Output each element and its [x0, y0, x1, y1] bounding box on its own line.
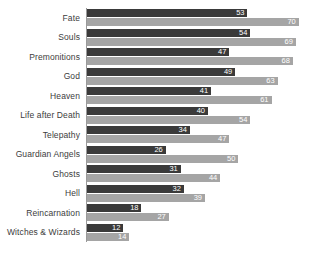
- chart-row: Life after Death 40 54: [0, 106, 314, 126]
- chart-row: Souls 54 69: [0, 28, 314, 48]
- category-label-ghosts: Ghosts: [0, 170, 86, 179]
- bar-primary-guardian-angels: 26: [87, 146, 166, 154]
- chart-row: Heaven 41 61: [0, 86, 314, 106]
- bar-value-primary-guardian-angels: 26: [154, 146, 162, 154]
- bar-value-secondary-ghosts: 44: [209, 174, 217, 182]
- chart-row: Telepathy 34 47: [0, 125, 314, 145]
- chart-row: God 49 63: [0, 67, 314, 87]
- bar-primary-hell: 32: [87, 185, 184, 193]
- bar-secondary-souls: 69: [87, 38, 296, 46]
- bar-group-ghosts: 31 44: [86, 164, 314, 184]
- bar-group-reincarnation: 18 27: [86, 203, 314, 223]
- bar-value-primary-god: 49: [224, 68, 232, 76]
- bar-value-secondary-life-after-death: 54: [239, 116, 247, 124]
- bar-primary-ghosts: 31: [87, 165, 181, 173]
- bar-secondary-life-after-death: 54: [87, 116, 250, 124]
- bar-value-secondary-souls: 69: [284, 38, 292, 46]
- category-label-premonitions: Premonitions: [0, 53, 86, 62]
- bar-secondary-hell: 39: [87, 194, 205, 202]
- bar-secondary-fate: 70: [87, 18, 299, 26]
- bar-primary-premonitions: 47: [87, 48, 229, 56]
- bar-value-secondary-premonitions: 68: [282, 57, 290, 65]
- bar-secondary-witches-and-wizards: 14: [87, 233, 129, 241]
- bar-value-primary-witches-and-wizards: 12: [112, 224, 120, 232]
- bar-value-primary-hell: 32: [173, 185, 181, 193]
- bar-primary-telepathy: 34: [87, 126, 190, 134]
- bar-group-souls: 54 69: [86, 28, 314, 48]
- bar-primary-life-after-death: 40: [87, 107, 208, 115]
- chart-plot-area: Fate 53 70 Souls 54 69 Pre: [0, 8, 314, 252]
- bar-group-god: 49 63: [86, 67, 314, 87]
- bar-chart: Fate 53 70 Souls 54 69 Pre: [0, 0, 318, 270]
- bar-primary-witches-and-wizards: 12: [87, 224, 123, 232]
- bar-value-primary-souls: 54: [239, 29, 247, 37]
- bar-group-telepathy: 34 47: [86, 125, 314, 145]
- category-label-god: God: [0, 72, 86, 81]
- bar-value-secondary-god: 63: [266, 77, 274, 85]
- category-label-souls: Souls: [0, 33, 86, 42]
- bar-primary-heaven: 41: [87, 87, 211, 95]
- bar-secondary-ghosts: 44: [87, 174, 220, 182]
- bar-primary-fate: 53: [87, 9, 247, 17]
- chart-row: Hell 32 39: [0, 184, 314, 204]
- bar-secondary-telepathy: 47: [87, 135, 229, 143]
- category-label-heaven: Heaven: [0, 92, 86, 101]
- bar-value-secondary-hell: 39: [194, 194, 202, 202]
- bar-value-secondary-reincarnation: 27: [157, 213, 165, 221]
- chart-row: Guardian Angels 26 50: [0, 145, 314, 165]
- bar-value-primary-ghosts: 31: [169, 165, 177, 173]
- chart-row: Fate 53 70: [0, 8, 314, 28]
- chart-row: Reincarnation 18 27: [0, 203, 314, 223]
- bar-secondary-premonitions: 68: [87, 57, 293, 65]
- category-label-hell: Hell: [0, 189, 86, 198]
- category-label-reincarnation: Reincarnation: [0, 209, 86, 218]
- bar-group-guardian-angels: 26 50: [86, 145, 314, 165]
- category-label-telepathy: Telepathy: [0, 131, 86, 140]
- bar-primary-god: 49: [87, 68, 235, 76]
- category-label-guardian-angels: Guardian Angels: [0, 150, 86, 159]
- chart-row: Ghosts 31 44: [0, 164, 314, 184]
- bar-value-primary-reincarnation: 18: [130, 204, 138, 212]
- bar-group-premonitions: 47 68: [86, 47, 314, 67]
- bar-value-primary-telepathy: 34: [178, 126, 186, 134]
- category-label-life-after-death: Life after Death: [0, 111, 86, 120]
- bar-secondary-reincarnation: 27: [87, 213, 169, 221]
- bar-value-primary-fate: 53: [236, 9, 244, 17]
- bar-value-primary-heaven: 41: [200, 87, 208, 95]
- bar-group-heaven: 41 61: [86, 86, 314, 106]
- bar-group-fate: 53 70: [86, 8, 314, 28]
- bar-value-secondary-witches-and-wizards: 14: [118, 233, 126, 241]
- bar-secondary-heaven: 61: [87, 96, 272, 104]
- bar-value-primary-life-after-death: 40: [197, 107, 205, 115]
- bar-value-primary-premonitions: 47: [218, 48, 226, 56]
- bar-value-secondary-guardian-angels: 50: [227, 155, 235, 163]
- category-label-witches-and-wizards: Witches & Wizards: [0, 228, 86, 237]
- bar-group-life-after-death: 40 54: [86, 106, 314, 126]
- chart-row: Witches & Wizards 12 14: [0, 223, 314, 243]
- chart-row: Premonitions 47 68: [0, 47, 314, 67]
- bar-value-secondary-fate: 70: [287, 18, 295, 26]
- bar-value-secondary-heaven: 61: [260, 96, 268, 104]
- bar-primary-reincarnation: 18: [87, 204, 141, 212]
- bar-secondary-god: 63: [87, 77, 278, 85]
- category-label-fate: Fate: [0, 14, 86, 23]
- bar-group-hell: 32 39: [86, 184, 314, 204]
- bar-group-witches-and-wizards: 12 14: [86, 223, 314, 243]
- bar-secondary-guardian-angels: 50: [87, 155, 238, 163]
- bar-primary-souls: 54: [87, 29, 250, 37]
- bar-value-secondary-telepathy: 47: [218, 135, 226, 143]
